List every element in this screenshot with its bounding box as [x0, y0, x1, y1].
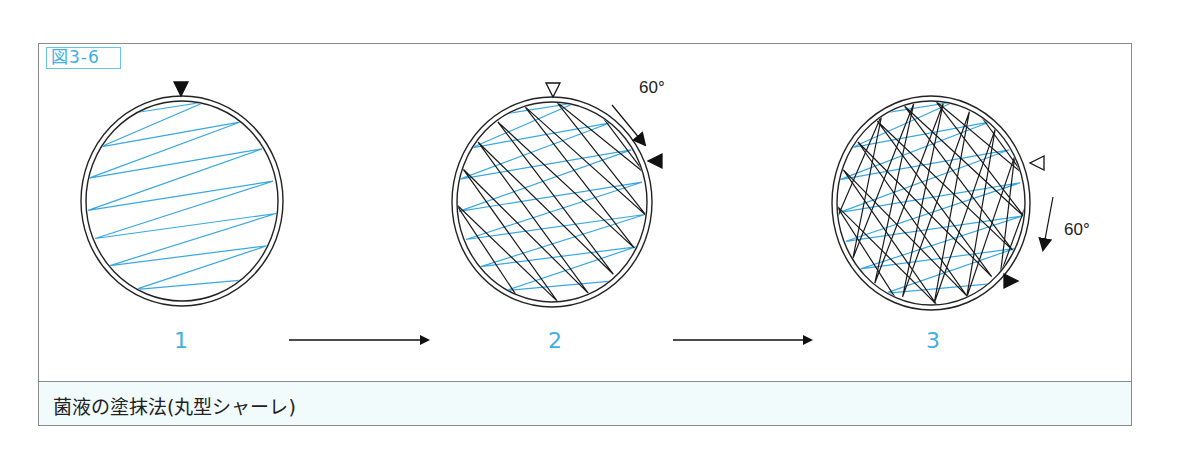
figure-caption: 菌液の塗抹法(丸型シャーレ) [53, 392, 296, 419]
rotation-arrow-icon [1043, 197, 1053, 250]
petri-dish-2 [452, 83, 662, 307]
next-marker-filled-triangle-icon [648, 154, 662, 168]
start-marker-hollow-triangle-icon [546, 83, 560, 97]
rotation-angle-label: 60° [1064, 220, 1090, 240]
step-number-2: 2 [548, 328, 562, 353]
rotation-arrow-icon [612, 105, 645, 145]
step-number-3: 3 [926, 328, 940, 353]
petri-dish-1 [81, 82, 283, 306]
petri-dish-3 [832, 96, 1053, 310]
streak-lines [88, 102, 276, 290]
petri-dishes [81, 82, 1053, 310]
caption-band: 菌液の塗抹法(丸型シャーレ) [38, 381, 1132, 426]
blue-streak [88, 102, 276, 290]
start-marker-hollow-triangle-icon [1030, 156, 1044, 170]
next-marker-filled-triangle-icon [1004, 274, 1018, 288]
rotation-angle-label: 60° [639, 78, 665, 98]
start-marker-filled-triangle-icon [174, 82, 188, 96]
step-number-1: 1 [174, 328, 188, 353]
